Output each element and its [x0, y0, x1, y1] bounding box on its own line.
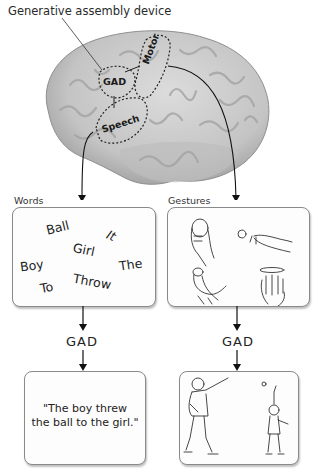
gestures-panel-label: Gestures	[168, 195, 210, 206]
word-ball: Ball	[45, 217, 71, 237]
girl-figure-icon	[266, 386, 288, 454]
word-the: The	[118, 255, 143, 273]
arrow-down-icon	[232, 350, 242, 372]
gad-label-left: GAD	[66, 334, 98, 349]
arrow-down-icon	[78, 306, 88, 332]
brain-illustration	[0, 0, 318, 200]
words-panel-label: Words	[14, 195, 43, 206]
word-it: It	[104, 227, 118, 244]
gestures-panel	[167, 207, 310, 307]
region-label-gad: GAD	[103, 76, 126, 87]
arrowhead-words	[78, 195, 86, 200]
arrow-down-icon	[78, 350, 88, 372]
word-girl: Girl	[72, 240, 96, 259]
boy-figure-icon	[184, 378, 228, 454]
ball-icon	[262, 382, 266, 386]
hand-releasing-ball-icon	[238, 230, 292, 252]
output-sentence-line-1: "The boy threw	[24, 402, 146, 416]
word-boy: Boy	[19, 256, 44, 274]
gestures-illustration	[168, 208, 309, 306]
word-to: To	[39, 279, 55, 296]
throw-scene-illustration	[180, 372, 298, 464]
word-throw: Throw	[72, 271, 112, 292]
sentence-output-panel: "The boy threw the ball to the girl."	[24, 371, 146, 465]
output-sentence-line-2: the ball to the girl."	[24, 416, 146, 430]
title-label: Generative assembly device	[8, 4, 171, 18]
scene-output-panel	[179, 371, 299, 465]
gad-label-right: GAD	[222, 334, 254, 349]
arrow-down-icon	[232, 306, 242, 332]
arrowhead-gestures	[232, 195, 240, 200]
hand-rotating-icon	[260, 268, 285, 307]
hand-holding-ball-icon	[191, 219, 214, 266]
hand-raising-ball-icon	[193, 268, 226, 304]
output-sentence: "The boy threw the ball to the girl."	[24, 402, 146, 430]
words-panel: Ball It Girl Boy The To Throw	[12, 207, 156, 307]
